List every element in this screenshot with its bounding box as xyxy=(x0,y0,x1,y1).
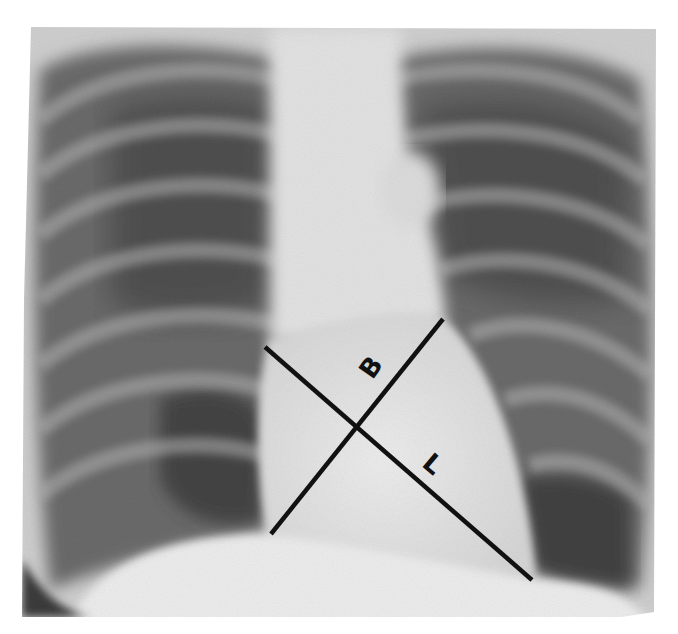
xray-image: B L xyxy=(0,0,678,634)
chest-xray-figure: B L xyxy=(0,0,678,634)
radiograph xyxy=(0,0,678,634)
aortic-knob xyxy=(380,152,440,228)
